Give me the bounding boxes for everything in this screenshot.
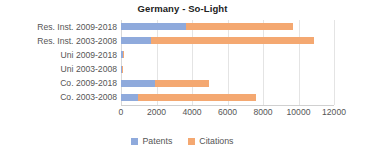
bar-row[interactable] bbox=[121, 48, 334, 62]
x-axis-tick-label: 10000 bbox=[287, 107, 311, 117]
x-axis-tick-label: 8000 bbox=[253, 107, 272, 117]
bar-segment-citations[interactable] bbox=[155, 80, 209, 87]
y-axis-label: Uni 2003-2008 bbox=[0, 64, 117, 74]
legend-swatch-icon bbox=[188, 138, 195, 145]
x-axis-tick-label: 0 bbox=[119, 107, 124, 117]
bar-segment-citations[interactable] bbox=[151, 37, 314, 44]
legend-label: Citations bbox=[199, 136, 233, 146]
y-axis-label: Co. 2003-2008 bbox=[0, 92, 117, 102]
bar-track bbox=[121, 94, 256, 101]
chart-container: Germany - So-Light Res. Inst. 2009-2018R… bbox=[0, 0, 365, 156]
bar-track bbox=[121, 80, 209, 87]
x-axis-tick-label: 12000 bbox=[322, 107, 346, 117]
x-axis-tick-labels: 020004000600080001000012000 bbox=[0, 107, 365, 119]
bar-track bbox=[121, 23, 293, 30]
legend-label: Patents bbox=[142, 136, 172, 146]
bar-segment-patents[interactable] bbox=[121, 37, 151, 44]
chart-legend: PatentsCitations bbox=[0, 136, 365, 146]
bar-row[interactable] bbox=[121, 20, 334, 34]
bar-track bbox=[121, 37, 314, 44]
bar-segment-patents[interactable] bbox=[121, 23, 186, 30]
bar-segment-citations[interactable] bbox=[123, 51, 124, 58]
legend-swatch-icon bbox=[131, 138, 138, 145]
x-axis-line bbox=[121, 105, 334, 106]
y-axis-category-labels: Res. Inst. 2009-2018Res. Inst. 2003-2008… bbox=[0, 20, 117, 105]
plot-area bbox=[121, 20, 334, 105]
bar-segment-citations[interactable] bbox=[186, 23, 293, 30]
bar-track bbox=[121, 51, 124, 58]
bar-row[interactable] bbox=[121, 34, 334, 48]
bar-segment-patents[interactable] bbox=[121, 94, 138, 101]
bar-row[interactable] bbox=[121, 63, 334, 77]
y-axis-label: Res. Inst. 2009-2018 bbox=[0, 22, 117, 32]
bar-row[interactable] bbox=[121, 77, 334, 91]
chart-title: Germany - So-Light bbox=[0, 3, 365, 14]
gridline-12000 bbox=[334, 20, 335, 105]
x-axis-tick-label: 4000 bbox=[182, 107, 201, 117]
legend-item-patents[interactable]: Patents bbox=[131, 136, 172, 146]
bar-segment-citations[interactable] bbox=[138, 94, 256, 101]
x-axis-tick-label: 2000 bbox=[147, 107, 166, 117]
y-axis-label: Uni 2009-2018 bbox=[0, 50, 117, 60]
bar-segment-patents[interactable] bbox=[121, 80, 155, 87]
x-axis-tick-label: 6000 bbox=[218, 107, 237, 117]
bar-segment-citations[interactable] bbox=[122, 66, 123, 73]
bar-track bbox=[121, 66, 123, 73]
legend-item-citations[interactable]: Citations bbox=[188, 136, 233, 146]
y-axis-label: Res. Inst. 2003-2008 bbox=[0, 36, 117, 46]
y-axis-label: Co. 2009-2018 bbox=[0, 78, 117, 88]
bar-row[interactable] bbox=[121, 91, 334, 105]
